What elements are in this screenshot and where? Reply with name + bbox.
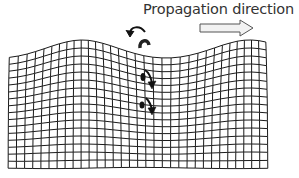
propagation-direction-label: Propagation direction: [143, 1, 294, 17]
hollow-right-arrow-icon: [200, 20, 253, 36]
counterclockwise-arrow-icon: [126, 27, 145, 37]
particle-icon: [140, 41, 149, 48]
deformed-grid: [0, 0, 299, 178]
